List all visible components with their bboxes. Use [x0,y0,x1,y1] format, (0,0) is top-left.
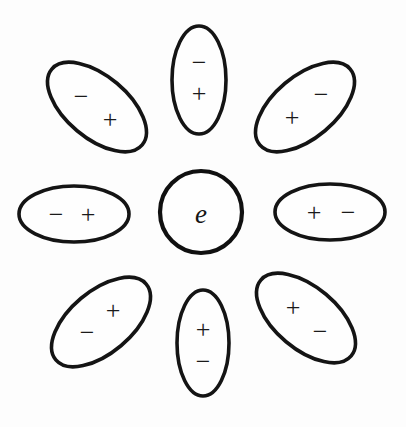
dipole-outline [19,186,129,242]
dipole-outline [240,45,370,168]
negative-charge-label: − [196,347,211,376]
dipole-outline [241,256,371,379]
positive-charge-label: + [196,315,211,344]
positive-charge-label: + [103,105,118,134]
positive-charge-label: + [106,296,121,325]
core-particle-label: e [195,199,207,229]
dipole-top-left: −+ [29,44,163,172]
negative-charge-label: − [314,80,329,109]
dipole-bottom-left: −+ [34,258,166,384]
dipole-middle-right: −+ [275,184,385,240]
positive-charge-label: + [192,79,207,108]
positive-charge-label: + [307,198,322,227]
dipole-top-center: −+ [172,26,226,134]
negative-charge-label: − [341,198,356,227]
dipole-outline [32,45,162,168]
dipole-outline [275,184,385,240]
positive-charge-label: + [81,200,96,229]
negative-charge-label: − [192,48,207,77]
dipole-middle-left: −+ [19,186,129,242]
polarization-diagram: −+−+−+−+−+−+−+−+ e [0,0,406,427]
negative-charge-label: − [49,200,64,229]
core-particle: e [160,171,242,253]
positive-charge-label: + [285,103,300,132]
dipole-bottom-center: −+ [177,290,229,396]
negative-charge-label: − [80,318,95,347]
core-particle-group: e [160,171,242,253]
dipole-outline [36,260,166,383]
figure-canvas: −+−+−+−+−+−+−+−+ e [0,0,406,427]
dipole-bottom-right: −+ [239,255,373,382]
positive-charge-label: + [286,293,301,322]
dipole-top-right: −+ [238,43,372,171]
negative-charge-label: − [74,82,89,111]
negative-charge-label: − [313,317,328,346]
